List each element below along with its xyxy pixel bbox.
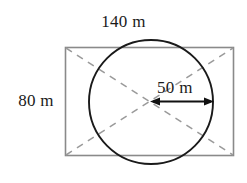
width-dimension-label: 140 m	[0, 13, 247, 30]
height-dimension-label: 80 m	[8, 92, 64, 109]
geometry-diagram: 140 m 80 m 50 m	[0, 0, 247, 183]
radius-dimension-label: 50 m	[157, 79, 193, 96]
radius-arrow	[150, 97, 214, 105]
